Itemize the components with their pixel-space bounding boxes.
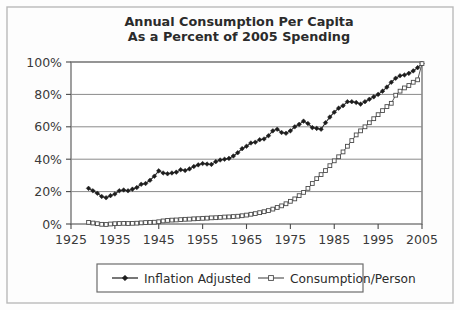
marker-open-square <box>214 216 218 220</box>
marker-open-square <box>288 199 292 203</box>
y-tick-label-40: 40% <box>34 152 62 167</box>
marker-open-square <box>403 86 407 90</box>
marker-open-square <box>398 89 402 93</box>
marker-open-square <box>389 101 393 105</box>
chart-title-line1: Annual Consumption Per Capita <box>124 14 353 29</box>
marker-open-square <box>188 217 192 221</box>
marker-open-square <box>258 211 262 215</box>
marker-open-square <box>205 216 209 220</box>
marker-open-square <box>346 144 350 148</box>
chart-title-line2: As a Percent of 2005 Spending <box>128 29 350 44</box>
marker-open-square <box>236 214 240 218</box>
marker-open-square <box>407 84 411 88</box>
marker-open-square <box>166 219 170 223</box>
plot-area <box>71 62 422 224</box>
marker-open-square <box>324 169 328 173</box>
chart-legend: Inflation AdjustedConsumption/Person <box>97 264 416 292</box>
marker-open-square <box>293 197 297 201</box>
marker-open-square <box>337 155 341 159</box>
marker-open-square <box>152 220 156 224</box>
marker-open-square <box>315 177 319 181</box>
x-tick-label-1945: 1945 <box>143 232 175 247</box>
marker-open-square <box>253 212 257 216</box>
marker-open-square <box>310 182 314 186</box>
x-tick-label-2005: 2005 <box>406 232 438 247</box>
x-tick-label-1995: 1995 <box>362 232 394 247</box>
marker-open-square <box>332 159 336 163</box>
marker-open-square <box>131 221 135 225</box>
marker-open-square <box>267 209 271 213</box>
marker-open-square <box>227 215 231 219</box>
marker-open-square <box>196 217 200 221</box>
marker-open-square <box>411 80 415 84</box>
chart-figure: Annual Consumption Per Capita As a Perce… <box>0 0 460 310</box>
marker-open-square <box>100 222 104 226</box>
marker-open-square <box>210 216 214 220</box>
marker-open-square <box>240 214 244 218</box>
y-tick-label-20: 20% <box>34 184 62 199</box>
marker-open-square <box>113 222 117 226</box>
y-tick-label-60: 60% <box>34 119 62 134</box>
x-axis: 192519351945195519651975198519952005 <box>55 224 438 247</box>
marker-open-square <box>245 213 249 217</box>
y-tick-label-100: 100% <box>26 55 62 70</box>
marker-open-square <box>385 105 389 109</box>
marker-open-square <box>148 220 152 224</box>
marker-open-square <box>363 125 367 129</box>
marker-open-square <box>269 276 274 281</box>
marker-open-square <box>174 218 178 222</box>
marker-open-square <box>275 206 279 210</box>
marker-open-square <box>394 93 398 97</box>
marker-open-square <box>306 186 310 190</box>
marker-open-square <box>139 221 143 225</box>
y-tick-label-80: 80% <box>34 87 62 102</box>
marker-open-square <box>104 223 108 227</box>
marker-open-square <box>297 194 301 198</box>
marker-open-square <box>117 222 121 226</box>
marker-open-square <box>161 219 165 223</box>
marker-open-square <box>126 222 130 226</box>
marker-open-square <box>170 218 174 222</box>
marker-open-square <box>341 150 345 154</box>
marker-open-square <box>284 202 288 206</box>
marker-open-square <box>87 220 91 224</box>
chart-canvas: Annual Consumption Per Capita As a Perce… <box>0 0 460 310</box>
legend-label-0: Inflation Adjusted <box>144 272 251 286</box>
y-tick-label-0: 0% <box>42 217 62 232</box>
marker-open-square <box>249 212 253 216</box>
marker-open-square <box>359 129 363 133</box>
x-tick-label-1975: 1975 <box>274 232 306 247</box>
marker-open-square <box>381 109 385 113</box>
marker-open-square <box>135 221 139 225</box>
marker-open-square <box>95 222 99 226</box>
marker-open-square <box>218 215 222 219</box>
marker-open-square <box>91 221 95 225</box>
marker-open-square <box>144 221 148 225</box>
marker-open-square <box>109 222 113 226</box>
marker-open-square <box>367 121 371 125</box>
marker-open-square <box>328 164 332 168</box>
x-tick-label-1935: 1935 <box>99 232 131 247</box>
marker-open-square <box>280 204 284 208</box>
legend-label-1: Consumption/Person <box>290 272 416 286</box>
marker-open-square <box>350 139 354 143</box>
marker-open-square <box>183 217 187 221</box>
marker-open-square <box>420 62 424 66</box>
marker-open-square <box>372 117 376 121</box>
marker-open-square <box>122 221 126 225</box>
x-tick-label-1955: 1955 <box>187 232 219 247</box>
marker-open-square <box>271 207 275 211</box>
x-tick-label-1985: 1985 <box>318 232 350 247</box>
marker-open-square <box>302 191 306 195</box>
marker-open-square <box>201 216 205 220</box>
marker-open-square <box>376 113 380 117</box>
x-tick-label-1925: 1925 <box>55 232 87 247</box>
marker-open-square <box>319 173 323 177</box>
marker-open-square <box>262 210 266 214</box>
marker-open-square <box>223 215 227 219</box>
x-tick-label-1965: 1965 <box>231 232 263 247</box>
marker-open-square <box>157 220 161 224</box>
marker-open-square <box>192 217 196 221</box>
marker-open-square <box>179 218 183 222</box>
marker-open-square <box>231 215 235 219</box>
